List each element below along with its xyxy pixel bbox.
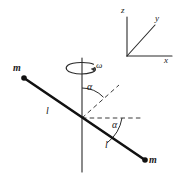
alpha-angle-arc-upper	[82, 88, 104, 97]
rod-line	[24, 78, 145, 160]
axis-label-y: y	[155, 14, 159, 23]
length-label-lower: l	[105, 140, 108, 150]
mass-label-upper: m	[13, 63, 21, 73]
coordinate-axes-triad	[127, 17, 172, 56]
axis-y-line	[127, 25, 155, 56]
mass-label-lower: m	[149, 155, 157, 165]
physics-diagram: z y x ω m m l l α α	[0, 0, 182, 183]
axis-label-z: z	[121, 6, 125, 15]
point-mass-lower-right	[142, 157, 148, 163]
point-mass-upper-left	[21, 75, 27, 81]
alpha-label-lower: α	[112, 120, 117, 130]
alpha-label-upper: α	[87, 82, 92, 92]
omega-rotation-arrow	[66, 62, 95, 73]
axis-label-x: x	[164, 56, 168, 65]
length-label-upper: l	[46, 106, 49, 116]
omega-label: ω	[96, 61, 102, 70]
